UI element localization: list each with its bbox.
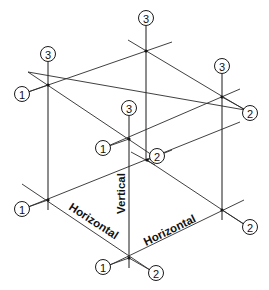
marker-2-bottom-right: 2 xyxy=(243,220,258,235)
svg-text:2: 2 xyxy=(154,151,160,163)
marker-1-top-left: 1 xyxy=(15,87,30,102)
svg-text:3: 3 xyxy=(45,49,51,61)
marker-2-inner: 2 xyxy=(150,149,165,164)
leader-lines xyxy=(28,85,244,270)
leader-bf-1 xyxy=(109,258,129,265)
leader-bl-1 xyxy=(28,200,48,207)
label-horizontal-left: Horizontal xyxy=(67,201,121,242)
marker-1-bottom-front: 1 xyxy=(96,260,111,275)
leader-br-2 xyxy=(222,210,244,224)
marker-2-top-right: 2 xyxy=(243,106,258,121)
marker-3-back: 3 xyxy=(139,11,154,26)
svg-text:2: 2 xyxy=(247,222,253,234)
marker-3-left: 3 xyxy=(41,47,56,62)
isometric-axes-diagram: 3 3 3 3 1 1 1 1 xyxy=(0,0,269,290)
leader-tl-1 xyxy=(28,85,48,92)
svg-text:1: 1 xyxy=(100,143,106,155)
leader-tr-2 xyxy=(222,97,244,109)
svg-text:1: 1 xyxy=(19,89,25,101)
marker-2-bottom-front: 2 xyxy=(149,266,164,281)
leader-c-1 xyxy=(109,139,129,146)
edge-bottom-left-front xyxy=(22,184,150,270)
svg-text:3: 3 xyxy=(219,61,225,73)
marker-1-bottom-left: 1 xyxy=(15,202,30,217)
leader-bf-2 xyxy=(129,258,150,270)
node-top-back xyxy=(144,49,147,52)
label-horizontal-right: Horizontal xyxy=(142,212,198,247)
markers: 3 3 3 3 1 1 1 1 xyxy=(15,11,258,281)
marker-3-right: 3 xyxy=(215,59,230,74)
svg-text:1: 1 xyxy=(100,262,106,274)
svg-text:1: 1 xyxy=(19,204,25,216)
label-vertical: Vertical xyxy=(115,173,127,214)
marker-3-center: 3 xyxy=(122,101,137,116)
svg-text:3: 3 xyxy=(143,13,149,25)
cube-edges xyxy=(22,26,245,270)
node-inner-lower xyxy=(145,158,148,161)
marker-1-center: 1 xyxy=(96,141,111,156)
svg-text:3: 3 xyxy=(126,103,132,115)
svg-text:2: 2 xyxy=(153,268,159,280)
svg-text:2: 2 xyxy=(247,108,253,120)
